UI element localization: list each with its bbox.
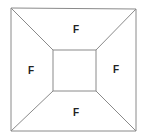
diagonal-top-right (96, 9, 136, 50)
inner-square (53, 50, 96, 91)
diagonal-bottom-right (96, 91, 136, 131)
diagonal-bottom-left (11, 91, 53, 131)
face-label-bottom: F (73, 107, 79, 118)
face-label-top: F (73, 24, 79, 35)
frustum-face-diagram: F F F F (0, 0, 143, 139)
diagonal-top-left (11, 8, 53, 50)
face-label-right: F (113, 64, 119, 75)
face-label-left: F (28, 65, 34, 76)
